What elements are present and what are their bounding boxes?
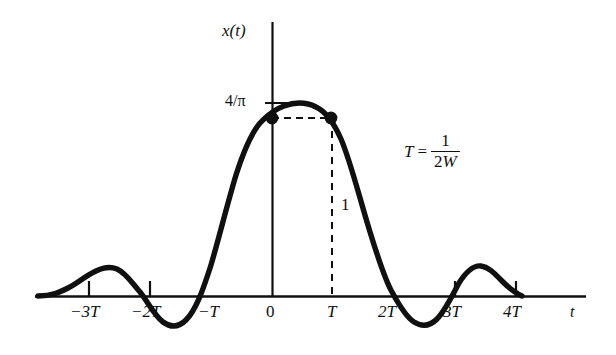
amplitude-label: 4/π <box>225 93 246 109</box>
definition-equation: T = 1 2W <box>404 132 460 171</box>
equation-equals-sign: = <box>417 142 427 162</box>
xtick-label-minusT: −T <box>198 303 219 320</box>
equation-denominator-variable: W <box>443 152 457 171</box>
equation-denominator-coefficient: 2 <box>434 152 443 171</box>
xtick-label-4T: 4T <box>503 303 521 320</box>
xtick-label-2T: 2T <box>378 303 396 320</box>
equation-denominator: 2W <box>431 152 460 171</box>
marker-dot-at-T <box>325 112 338 125</box>
xtick-label-minus3T: −3T <box>70 303 99 320</box>
equation-fraction: 1 2W <box>431 132 460 171</box>
y-axis-label: x(t) <box>222 22 246 39</box>
equation-numerator: 1 <box>437 132 454 151</box>
height-annotation-label: 1 <box>341 196 350 213</box>
x-axis-label: t <box>570 304 574 320</box>
xtick-label-3T: 3T <box>443 303 461 320</box>
xtick-label-minus2T: −2T <box>131 303 160 320</box>
sinc-pulse-figure: x(t) t 4/π 1 −3T −2T −T 0 T 2T 3T 4T T =… <box>0 0 616 355</box>
marker-dot-origin <box>266 112 279 125</box>
xtick-label-T: T <box>327 303 336 320</box>
equation-variable: T <box>404 142 413 162</box>
xtick-label-zero: 0 <box>266 303 275 320</box>
